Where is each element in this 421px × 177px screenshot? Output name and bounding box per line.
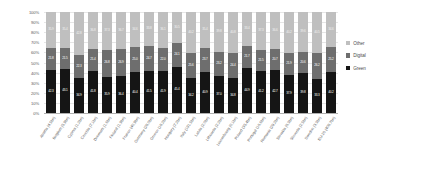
legend-item-green[interactable]: Green: [346, 65, 416, 71]
bar-segment-green[interactable]: 44.9: [242, 68, 253, 113]
bar-segment-green[interactable]: 41.5: [144, 71, 155, 113]
y-axis-tick-label: 60%: [31, 50, 39, 55]
bar-segment-other[interactable]: 39.6: [298, 12, 309, 52]
bar-segment-value-label: 39.8: [300, 91, 306, 94]
bar-segment-digital[interactable]: 21.8: [46, 48, 57, 70]
legend-label: Green: [353, 66, 366, 71]
bar-segment-other[interactable]: 36.8: [88, 12, 99, 49]
bar-segment-other[interactable]: 35.4: [200, 12, 211, 48]
y-axis-tick-label: 40%: [31, 70, 39, 75]
bar-segment-other[interactable]: 40.2: [186, 12, 197, 53]
bar-segment-other[interactable]: 36.6: [270, 12, 281, 49]
bar-segment-green[interactable]: 39.8: [298, 73, 309, 113]
bar-segment-digital[interactable]: 21.4: [88, 49, 99, 71]
bar-segment-other[interactable]: 40.2: [284, 12, 295, 53]
bar-segment-green[interactable]: 37.9: [284, 75, 295, 113]
y-axis-tick-label: 70%: [31, 40, 39, 45]
bar-segment-green[interactable]: 33.3: [312, 79, 323, 113]
bar-segment-digital[interactable]: 23.7: [200, 48, 211, 72]
bar-segment-digital[interactable]: 26.8: [102, 50, 113, 77]
bar-column[interactable]: 42.720.736.6: [270, 12, 281, 113]
bar-segment-other[interactable]: 40.8: [228, 12, 239, 53]
bar-segment-green[interactable]: 41.2: [256, 71, 267, 113]
legend-item-other[interactable]: Other: [346, 40, 416, 46]
bar-column[interactable]: 36.426.936.7: [116, 12, 127, 113]
bar-segment-green[interactable]: 40.2: [326, 72, 337, 113]
bar-column[interactable]: 35.926.837.3: [102, 12, 113, 113]
bar-segment-green[interactable]: 41.8: [88, 71, 99, 113]
bar-segment-green[interactable]: 45.4: [172, 67, 183, 113]
bar-segment-other[interactable]: 33.8: [144, 12, 155, 46]
bar-segment-value-label: 36.6: [272, 29, 278, 32]
bar-column[interactable]: 41.221.537.3: [256, 12, 267, 113]
bar-column[interactable]: 34.824.440.8: [228, 12, 239, 113]
bar-segment-digital[interactable]: 25.2: [326, 47, 337, 72]
bar-segment-green[interactable]: 35.9: [102, 77, 113, 113]
bar-column[interactable]: 40.225.234.6: [326, 12, 337, 113]
bar-segment-digital[interactable]: 22.0: [158, 48, 169, 70]
bar-column[interactable]: 43.121.535.4: [60, 12, 71, 113]
bar-segment-green[interactable]: 43.1: [60, 69, 71, 113]
plot-area: 42.321.835.943.121.535.434.922.342.841.8…: [44, 12, 338, 113]
bar-segment-value-label: 39.8: [216, 30, 222, 33]
bar-segment-other[interactable]: 39.8: [214, 12, 225, 52]
bar-segment-green[interactable]: 42.7: [270, 70, 281, 113]
bar-column[interactable]: 41.524.733.8: [144, 12, 155, 113]
bar-segment-digital[interactable]: 24.4: [228, 53, 239, 78]
bar-segment-green[interactable]: 36.4: [116, 76, 127, 113]
bar-column[interactable]: 34.225.640.2: [186, 12, 197, 113]
bar-segment-digital[interactable]: 23.2: [214, 52, 225, 75]
bar-column[interactable]: 44.921.733.4: [242, 12, 253, 113]
bar-segment-other[interactable]: 37.3: [256, 12, 267, 50]
bar-segment-other[interactable]: 34.6: [326, 12, 337, 47]
bar-segment-digital[interactable]: 21.9: [284, 53, 295, 75]
bar-segment-other[interactable]: 35.9: [46, 12, 57, 48]
bar-segment-green[interactable]: 34.2: [186, 78, 197, 113]
bar-segment-digital[interactable]: 26.9: [116, 49, 127, 76]
bar-segment-other[interactable]: 37.3: [102, 12, 113, 50]
bar-column[interactable]: 45.424.130.5: [172, 12, 183, 113]
bar-segment-value-label: 21.9: [286, 62, 292, 65]
bar-segment-value-label: 35.9: [48, 28, 54, 31]
bar-column[interactable]: 37.921.940.2: [284, 12, 295, 113]
bar-segment-digital[interactable]: 21.5: [256, 50, 267, 72]
bar-segment-digital[interactable]: 21.7: [242, 46, 253, 68]
legend-item-digital[interactable]: Digital: [346, 53, 416, 59]
bar-segment-other[interactable]: 35.4: [60, 12, 71, 48]
bar-segment-digital[interactable]: 26.2: [312, 53, 323, 79]
bar-column[interactable]: 41.922.036.1: [158, 12, 169, 113]
bar-segment-green[interactable]: 40.9: [200, 72, 211, 113]
bar-column[interactable]: 34.922.342.8: [74, 12, 85, 113]
bar-column[interactable]: 33.326.240.5: [312, 12, 323, 113]
bar-column[interactable]: 41.821.436.8: [88, 12, 99, 113]
bar-segment-other[interactable]: 34.6: [130, 12, 141, 47]
bar-column[interactable]: 39.820.639.6: [298, 12, 309, 113]
bar-segment-other[interactable]: 40.5: [312, 12, 323, 53]
bar-column[interactable]: 40.425.034.6: [130, 12, 141, 113]
bar-segment-value-label: 43.1: [62, 90, 68, 93]
bar-segment-digital[interactable]: 22.3: [74, 55, 85, 78]
bar-column[interactable]: 42.321.835.9: [46, 12, 57, 113]
bar-segment-green[interactable]: 34.9: [74, 78, 85, 113]
bar-segment-green[interactable]: 37.0: [214, 76, 225, 113]
bar-segment-digital[interactable]: 25.0: [130, 47, 141, 72]
bar-segment-green[interactable]: 40.4: [130, 72, 141, 113]
bar-segment-digital[interactable]: 20.6: [298, 52, 309, 73]
y-axis-tick-label: 80%: [31, 30, 39, 35]
bar-column[interactable]: 40.923.735.4: [200, 12, 211, 113]
bar-segment-other[interactable]: 42.8: [74, 12, 85, 55]
bar-segment-other[interactable]: 33.4: [242, 12, 253, 46]
bar-segment-digital[interactable]: 25.6: [186, 53, 197, 79]
bar-segment-green[interactable]: 41.9: [158, 71, 169, 113]
bar-segment-other[interactable]: 30.5: [172, 12, 183, 43]
bar-segment-digital[interactable]: 24.1: [172, 43, 183, 67]
bar-segment-green[interactable]: 42.3: [46, 70, 57, 113]
bar-segment-green[interactable]: 34.8: [228, 78, 239, 113]
bar-segment-digital[interactable]: 21.5: [60, 48, 71, 70]
bar-segment-other[interactable]: 36.7: [116, 12, 127, 49]
bar-segment-value-label: 26.9: [118, 61, 124, 64]
bar-column[interactable]: 37.023.239.8: [214, 12, 225, 113]
bar-segment-other[interactable]: 36.1: [158, 12, 169, 48]
bar-segment-digital[interactable]: 24.7: [144, 46, 155, 71]
bar-segment-digital[interactable]: 20.7: [270, 49, 281, 70]
